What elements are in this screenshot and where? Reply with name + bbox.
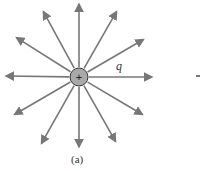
edge-fragment: [196, 75, 200, 77]
field-line-arrow: [43, 12, 74, 69]
field-line-arrow: [84, 86, 116, 142]
field-line-arrow: [84, 12, 117, 69]
figure-caption: (a): [71, 153, 83, 165]
field-line-arrow: [88, 82, 143, 114]
field-line-arrow: [17, 38, 71, 72]
charge-label: q: [116, 59, 122, 74]
field-diagram: +: [0, 0, 200, 171]
field-line-arrow: [42, 86, 75, 144]
field-line-arrow: [6, 76, 69, 77]
plus-sign-icon: +: [76, 71, 82, 83]
charge: +: [70, 68, 88, 86]
field-line-arrow: [15, 82, 71, 115]
